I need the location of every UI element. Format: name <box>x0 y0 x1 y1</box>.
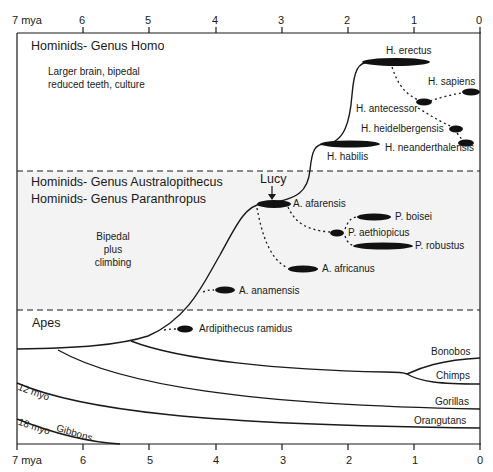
top-tick-3: 3 <box>278 15 284 26</box>
top-tick-1: 1 <box>411 15 417 26</box>
chimp-bonobo-stem <box>131 341 407 374</box>
h-heidelbergensis-range <box>449 126 463 133</box>
top-tick-5: 5 <box>145 15 151 26</box>
h-habilis-range <box>320 141 380 148</box>
erectus-to-antecessor <box>392 67 423 102</box>
label-p-boisei: P. boisei <box>395 212 432 222</box>
label-lucy: Lucy <box>260 173 286 186</box>
label-bonobos: Bonobos <box>431 347 470 357</box>
bottom-tick-6: 6 <box>80 455 86 466</box>
label-ardipithecus-ramidus: Ardipithecus ramidus <box>199 324 292 334</box>
ardipithecus-range <box>177 326 193 333</box>
label-a-africanus: A. africanus <box>322 264 375 274</box>
a-africanus-range <box>288 266 318 273</box>
bottom-tick-1: 1 <box>412 455 418 466</box>
top-tick-2: 2 <box>344 15 350 26</box>
p-robustus-range <box>353 243 413 250</box>
homo-zone-desc-1: Larger brain, bipedal <box>48 65 140 78</box>
p-boisei-range <box>357 214 391 221</box>
a-afarensis-range <box>257 200 291 208</box>
australopithecus-desc-1: Bipedal <box>90 230 136 243</box>
bottom-axis-unit-label: 7 mya <box>12 455 42 466</box>
homo-zone-desc-2: reduced teeth, culture <box>48 78 145 91</box>
label-a-anamensis: A. anamensis <box>239 286 300 296</box>
bottom-tick-4: 4 <box>213 455 219 466</box>
top-tick-6: 6 <box>79 15 85 26</box>
antecessor-to-sapiens <box>430 92 468 101</box>
label-h-heidelbergensis: H. heidelbergensis <box>361 124 444 134</box>
h-sapiens-range <box>462 89 480 96</box>
homo-zone-title: Hominids- Genus Homo <box>31 40 164 53</box>
top-axis-unit-label: 7 mya <box>12 15 42 26</box>
label-orangutans: Orangutans <box>414 416 466 426</box>
label-p-robustus: P. robustus <box>415 241 464 251</box>
label-chimps: Chimps <box>436 371 470 381</box>
label-h-antecessor: H. antecessor <box>356 104 418 114</box>
bottom-tick-5: 5 <box>147 455 153 466</box>
orangutan-line <box>17 383 480 428</box>
label-p-aethiopicus: P. aethiopicus <box>348 228 410 238</box>
top-tick-0: 0 <box>476 15 482 26</box>
australopithecus-desc-3: climbing <box>90 256 136 269</box>
label-h-sapiens: H. sapiens <box>428 77 475 87</box>
label-gorillas: Gorillas <box>435 397 469 407</box>
gorilla-line <box>58 350 480 409</box>
bottom-tick-3: 3 <box>280 455 286 466</box>
australopithecus-desc-2: plus <box>90 243 136 256</box>
apes-zone-title: Apes <box>32 317 61 330</box>
trunk-to-ardipithecus <box>164 329 177 330</box>
label-h-neanderthalensis: H. neanderthalensis <box>385 143 474 153</box>
bottom-tick-0: 0 <box>477 455 483 466</box>
paranthropus-zone-title: Hominids- Genus Paranthropus <box>31 193 206 206</box>
label-a-afarensis: A. afarensis <box>293 199 346 209</box>
p-aethiopicus-range <box>330 230 344 237</box>
bottom-tick-2: 2 <box>346 455 352 466</box>
top-tick-4: 4 <box>212 15 218 26</box>
label-h-habilis: H. habilis <box>327 152 368 162</box>
h-erectus-range <box>362 58 430 66</box>
h-antecessor-range <box>416 99 432 106</box>
label-h-erectus: H. erectus <box>386 46 432 56</box>
australopithecus-zone-title: Hominids- Genus Australopithecus <box>31 176 223 189</box>
a-anamensis-range <box>215 287 235 294</box>
